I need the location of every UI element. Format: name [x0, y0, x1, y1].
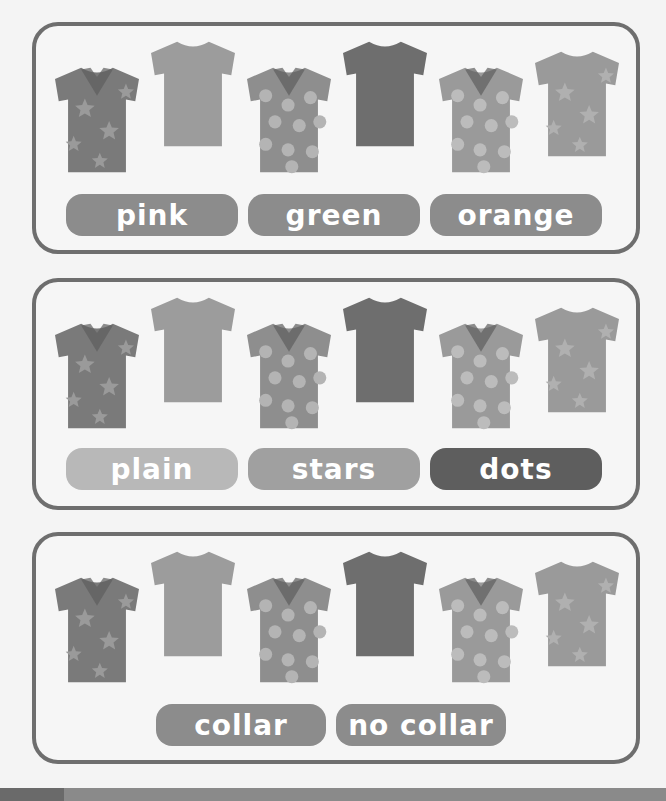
shirt-stars-collar[interactable]	[50, 574, 144, 686]
shirt-plain-no-collar[interactable]	[338, 38, 432, 150]
collar-panel: collar no collar	[32, 532, 640, 764]
shirt-dots-collar[interactable]	[434, 64, 528, 176]
label-collar[interactable]: collar	[156, 704, 326, 746]
label-dots[interactable]: dots	[430, 448, 602, 490]
shirt-dots-collar[interactable]	[434, 320, 528, 432]
shirt-stars-no-collar[interactable]	[530, 48, 624, 160]
shirt-dots-collar[interactable]	[242, 320, 336, 432]
footer-band-accent	[0, 788, 64, 801]
label-orange[interactable]: orange	[430, 194, 602, 236]
shirt-row	[50, 294, 630, 434]
label-green[interactable]: green	[248, 194, 420, 236]
label-plain[interactable]: plain	[66, 448, 238, 490]
shirt-plain-no-collar[interactable]	[146, 548, 240, 660]
shirt-plain-no-collar[interactable]	[146, 294, 240, 406]
shirt-plain-no-collar[interactable]	[338, 294, 432, 406]
shirt-dots-collar[interactable]	[242, 574, 336, 686]
shirt-dots-collar[interactable]	[434, 574, 528, 686]
label-no-collar[interactable]: no collar	[336, 704, 506, 746]
shirt-row	[50, 38, 630, 178]
color-panel: pink green orange	[32, 22, 640, 254]
shirt-stars-no-collar[interactable]	[530, 558, 624, 670]
label-stars[interactable]: stars	[248, 448, 420, 490]
shirt-stars-collar[interactable]	[50, 320, 144, 432]
shirt-plain-no-collar[interactable]	[338, 548, 432, 660]
shirt-stars-no-collar[interactable]	[530, 304, 624, 416]
pattern-panel: plain stars dots	[32, 278, 640, 510]
shirt-plain-no-collar[interactable]	[146, 38, 240, 150]
label-pink[interactable]: pink	[66, 194, 238, 236]
shirt-row	[50, 548, 630, 688]
shirt-stars-collar[interactable]	[50, 64, 144, 176]
shirt-dots-collar[interactable]	[242, 64, 336, 176]
footer-band	[0, 788, 666, 801]
